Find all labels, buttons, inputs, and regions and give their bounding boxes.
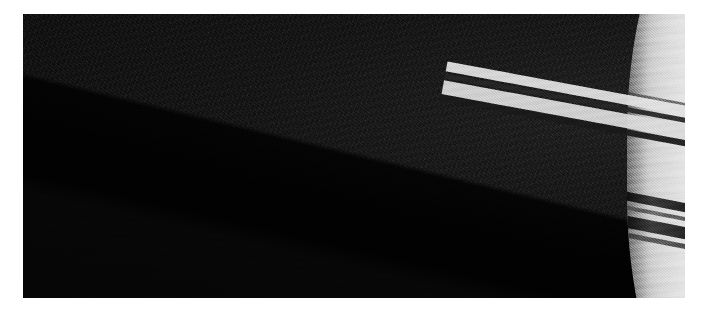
page-canvas: Saturn's rings seen at a low angle with … xyxy=(0,0,708,313)
ring-shadows-on-planet xyxy=(627,14,685,298)
ring-shadow-band-0 xyxy=(627,84,685,186)
ring-shadow-band-3 xyxy=(627,208,685,298)
ring-bands xyxy=(23,262,685,298)
ring-fine-striations xyxy=(23,262,685,298)
planet-shadow-on-rings xyxy=(23,14,685,298)
ring-system xyxy=(23,14,685,298)
ring-shadow-band-2 xyxy=(627,198,685,298)
saturn-rings-photo: Saturn's rings seen at a low angle with … xyxy=(23,14,685,298)
